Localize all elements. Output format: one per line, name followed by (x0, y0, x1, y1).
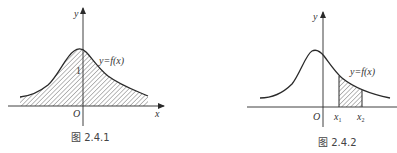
x1-subscript: 1 (338, 117, 341, 123)
figure-canvas: y x O 1 y=f(x) 图 2.4.1 y O y=f(x) x1 x2 … (0, 0, 397, 153)
shaded-region (339, 76, 362, 107)
y-axis-label: y (73, 8, 79, 19)
curve-label: y=f(x) (98, 55, 125, 67)
origin-label: O (73, 108, 80, 119)
shaded-region (20, 49, 148, 106)
figure-2: y O y=f(x) x1 x2 图 2.4.2 (247, 11, 397, 148)
x2-label: x2 (356, 111, 364, 123)
x1-label: x1 (333, 111, 341, 123)
figure-caption: 图 2.4.1 (71, 132, 110, 143)
tick-label-1: 1 (76, 65, 81, 76)
y-axis-label: y (312, 11, 318, 22)
origin-label: O (313, 111, 320, 122)
curve-label: y=f(x) (349, 66, 376, 78)
figure-caption: 图 2.4.2 (318, 137, 357, 148)
figure-1: y x O 1 y=f(x) 图 2.4.1 (8, 8, 164, 143)
x-axis-label: x (154, 108, 160, 119)
x2-subscript: 2 (361, 117, 364, 123)
